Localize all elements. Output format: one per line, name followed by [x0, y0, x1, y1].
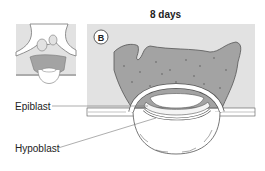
panel-label-b: B [98, 33, 105, 43]
panel-b [87, 24, 255, 154]
inset-panel [16, 24, 76, 84]
embryo-diagram: B [0, 0, 265, 171]
